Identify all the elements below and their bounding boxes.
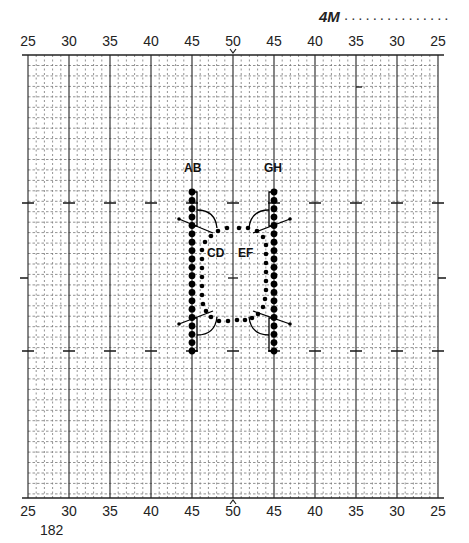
- marcher-dot: [189, 214, 196, 221]
- marcher-dot: [271, 256, 278, 263]
- marcher-dot: [271, 205, 278, 212]
- marcher-dot: [271, 339, 278, 346]
- page-number: 182: [40, 522, 63, 538]
- marcher-dot-small: [243, 318, 248, 323]
- marcher-dot: [271, 289, 278, 296]
- section-label: CD: [207, 246, 225, 260]
- arrow-tip-icon: [288, 322, 292, 326]
- marcher-dot-small: [209, 315, 214, 320]
- direction-arrow-icon: [253, 311, 290, 324]
- marcher-dot-small: [200, 257, 205, 262]
- marcher-dot-small: [200, 275, 205, 280]
- direction-arrow-icon: [253, 219, 290, 233]
- yard-number: 50: [225, 503, 241, 519]
- marcher-dot-small: [250, 316, 255, 321]
- marcher-dot: [189, 239, 196, 246]
- marcher-dot-small: [217, 319, 222, 324]
- yard-number: 35: [348, 503, 364, 519]
- marcher-dot-small: [264, 279, 269, 284]
- yard-number: 30: [389, 503, 405, 519]
- marcher-dot: [271, 281, 278, 288]
- marcher-dot-small: [264, 288, 269, 293]
- marcher-dot-small: [200, 293, 205, 298]
- marcher-dot: [271, 247, 278, 254]
- marcher-dot: [271, 297, 278, 304]
- marcher-dot-small: [264, 270, 269, 275]
- marcher-dot-small: [201, 302, 206, 307]
- marcher-dot: [271, 214, 278, 221]
- marcher-dot: [189, 247, 196, 254]
- marcher-dot: [271, 264, 278, 271]
- marcher-dot: [189, 256, 196, 263]
- section-label: EF: [238, 246, 253, 260]
- marcher-dot-small: [235, 318, 240, 323]
- marcher-dot: [271, 272, 278, 279]
- marcher-dot: [189, 264, 196, 271]
- marcher-dot-small: [216, 229, 221, 234]
- marcher-dot: [271, 323, 278, 330]
- marcher-dot-small: [264, 252, 269, 257]
- section-label: AB: [184, 161, 202, 175]
- section-label: GH: [264, 161, 282, 175]
- yard-number: 25: [20, 503, 36, 519]
- marcher-dot-small: [237, 226, 242, 231]
- marcher-dot-small: [264, 261, 269, 266]
- marcher-dot-small: [226, 319, 231, 324]
- arrow-tip-icon: [288, 217, 292, 221]
- marcher-dot: [271, 230, 278, 237]
- yard-number: 40: [307, 503, 323, 519]
- yard-number: 45: [266, 503, 282, 519]
- yard-number: 45: [184, 503, 200, 519]
- marcher-dot: [271, 197, 278, 204]
- arrow-tip-icon: [177, 322, 181, 326]
- marcher-dot: [189, 331, 196, 338]
- yard-number: 40: [143, 503, 159, 519]
- marcher-dot: [189, 306, 196, 313]
- marcher-dot-small: [261, 235, 266, 240]
- marching-field-diagram: ABGHCDEF: [0, 0, 469, 543]
- marcher-dot-small: [225, 226, 230, 231]
- arrow-tip-icon: [177, 217, 181, 221]
- marcher-dot: [189, 281, 196, 288]
- marcher-dot-small: [203, 240, 208, 245]
- yard-number: 30: [61, 503, 77, 519]
- marcher-dot: [189, 323, 196, 330]
- marcher-dot: [189, 205, 196, 212]
- marcher-dot-small: [264, 243, 269, 248]
- yard-scale-bottom: 2530354045504540353025: [0, 503, 469, 523]
- yard-number: 25: [430, 503, 446, 519]
- center-marker-top-icon: [230, 49, 236, 53]
- marcher-dot: [189, 230, 196, 237]
- marcher-dot: [189, 339, 196, 346]
- marcher-dot-small: [200, 266, 205, 271]
- marcher-dot-small: [200, 248, 205, 253]
- marcher-dot-small: [263, 297, 268, 302]
- marcher-dot-small: [209, 234, 214, 239]
- marcher-dot: [271, 331, 278, 338]
- marcher-dot-small: [200, 284, 205, 289]
- marcher-dot: [271, 306, 278, 313]
- marcher-dot: [189, 297, 196, 304]
- marcher-dot: [189, 197, 196, 204]
- yard-number: 35: [102, 503, 118, 519]
- marcher-dot-small: [261, 305, 266, 310]
- marcher-dot: [189, 289, 196, 296]
- marcher-dot: [271, 239, 278, 246]
- marcher-dot: [189, 272, 196, 279]
